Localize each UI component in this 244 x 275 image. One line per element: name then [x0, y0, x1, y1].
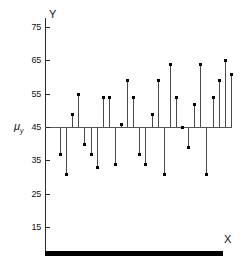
stem-line [84, 127, 85, 144]
y-axis-tick [46, 127, 50, 128]
data-point-marker [199, 63, 202, 66]
data-point-marker [218, 79, 221, 82]
stem-line [170, 64, 171, 127]
stem-line [176, 97, 177, 127]
stem-line [158, 80, 159, 127]
y-axis-tick-label: 55 [19, 90, 41, 99]
stem-line [164, 127, 165, 174]
y-axis-tick-label: 75 [19, 23, 41, 32]
y-axis-tick-label: 65 [19, 56, 41, 65]
stem-line [206, 127, 207, 174]
stem-line [188, 127, 189, 147]
data-point-marker [126, 79, 129, 82]
y-axis-tick [46, 160, 50, 161]
y-axis-tick [46, 94, 50, 95]
stem-line [231, 74, 232, 127]
data-point-marker [90, 153, 93, 156]
data-point-marker [102, 96, 105, 99]
data-point-marker [120, 123, 123, 126]
stem-line [109, 97, 110, 127]
y-axis-tick-label: 35 [19, 156, 41, 165]
stem-line [66, 127, 67, 174]
data-point-marker [157, 79, 160, 82]
stem-line [213, 97, 214, 127]
y-axis-tick-label: 45 [19, 123, 41, 132]
stem-line [225, 60, 226, 127]
stem-line [60, 127, 61, 154]
stem-line [200, 64, 201, 127]
stem-line [127, 80, 128, 127]
data-point-marker [108, 96, 111, 99]
stem-line [194, 104, 195, 127]
y-axis-tick-label: 25 [19, 190, 41, 199]
data-point-marker [169, 63, 172, 66]
data-point-marker [132, 96, 135, 99]
stem-line [103, 97, 104, 127]
data-point-marker [83, 143, 86, 146]
data-point-marker [230, 73, 233, 76]
stem-line [133, 97, 134, 127]
data-point-marker [59, 153, 62, 156]
data-point-marker [114, 163, 117, 166]
data-point-marker [163, 173, 166, 176]
stem-line [145, 127, 146, 164]
stem-line [219, 80, 220, 127]
data-point-marker [144, 163, 147, 166]
stem-line [78, 94, 79, 127]
data-point-marker [205, 173, 208, 176]
plot-area: 15253545556575 [0, 0, 244, 275]
data-point-marker [212, 96, 215, 99]
y-axis-tick [46, 60, 50, 61]
data-point-marker [193, 103, 196, 106]
data-point-marker [181, 126, 184, 129]
stem-line [115, 127, 116, 164]
data-point-marker [138, 153, 141, 156]
y-axis-tick [46, 227, 50, 228]
stem-line [139, 127, 140, 154]
y-axis-tick [46, 194, 50, 195]
chart-figure: Y X μy 15253545556575 [0, 0, 244, 275]
data-point-marker [77, 93, 80, 96]
data-point-marker [65, 173, 68, 176]
data-point-marker [187, 146, 190, 149]
data-point-marker [175, 96, 178, 99]
data-point-marker [71, 113, 74, 116]
stem-line [91, 127, 92, 154]
data-point-marker [96, 166, 99, 169]
y-axis-tick-label: 15 [19, 223, 41, 232]
data-point-marker [151, 113, 154, 116]
stem-line [97, 127, 98, 167]
y-axis-tick [46, 27, 50, 28]
data-point-marker [224, 59, 227, 62]
